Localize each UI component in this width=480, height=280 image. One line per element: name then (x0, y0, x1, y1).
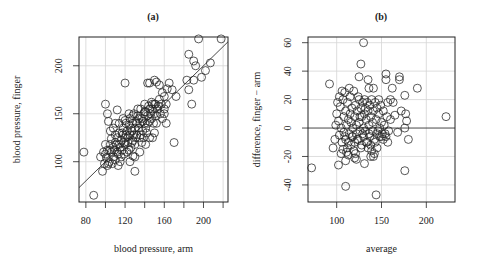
data-point (383, 113, 391, 121)
data-point (340, 113, 348, 121)
data-point (345, 84, 353, 92)
chart-figure: 80120160200100150200(a)blood pressure, a… (0, 0, 480, 280)
data-point (339, 145, 347, 153)
data-point (150, 129, 158, 137)
x-axis-label: average (366, 243, 398, 254)
data-point (365, 84, 373, 92)
data-point (394, 128, 402, 136)
data-point (401, 91, 409, 99)
data-point (355, 73, 363, 81)
data-point (360, 160, 368, 168)
data-point (195, 35, 203, 43)
data-point (401, 167, 409, 175)
data-point (373, 104, 381, 112)
x-tick-label: 200 (196, 215, 211, 226)
data-point (162, 100, 170, 108)
data-point (217, 35, 225, 43)
data-point (185, 50, 193, 58)
data-point (190, 57, 198, 65)
data-point (364, 76, 372, 84)
data-point (331, 135, 339, 143)
y-tick-label: -20 (282, 150, 293, 163)
x-tick-label: 200 (419, 215, 434, 226)
data-point (334, 161, 342, 169)
y-tick-label: 200 (53, 58, 64, 73)
data-point (397, 107, 405, 115)
panel-title: (b) (375, 11, 387, 23)
y-tick-label: 60 (282, 38, 293, 48)
data-point (369, 84, 377, 92)
data-point (388, 84, 396, 92)
data-point (329, 144, 337, 152)
y-tick-label: -40 (282, 178, 293, 191)
data-point (404, 135, 412, 143)
data-point (386, 116, 394, 124)
panel-title: (a) (147, 11, 159, 23)
x-tick-label: 100 (329, 215, 344, 226)
data-point (357, 60, 365, 68)
data-point (162, 119, 170, 127)
data-point (350, 87, 358, 95)
data-point (342, 107, 350, 115)
data-point (185, 86, 193, 94)
data-point (90, 191, 98, 199)
data-point (342, 182, 350, 190)
x-tick-label: 160 (157, 215, 172, 226)
panel-b-scatter: 100150200-40-200204060(b)averagedifferen… (251, 11, 455, 254)
data-point (113, 106, 121, 114)
data-point (131, 167, 139, 175)
data-point (413, 84, 421, 92)
x-tick-label: 120 (118, 215, 133, 226)
x-tick-label: 80 (81, 215, 91, 226)
data-point (384, 138, 392, 146)
y-axis-label: blood pressure, finger (11, 75, 22, 163)
y-tick-label: 100 (53, 154, 64, 169)
data-point (326, 80, 334, 88)
data-point (372, 191, 380, 199)
data-point (403, 117, 411, 125)
y-tick-label: 20 (282, 95, 293, 105)
data-point (442, 113, 450, 121)
data-point (188, 100, 196, 108)
data-point (371, 138, 379, 146)
data-point (172, 92, 180, 100)
data-point (198, 73, 206, 81)
data-point (382, 76, 390, 84)
x-axis-label: blood pressure, arm (114, 243, 193, 254)
data-point (308, 164, 316, 172)
y-tick-label: 150 (53, 106, 64, 121)
y-tick-label: 40 (282, 66, 293, 76)
data-point (80, 148, 88, 156)
data-point (369, 118, 377, 126)
data-point (170, 139, 178, 147)
y-axis-label: difference, finger − arm (251, 72, 262, 168)
panel-a-scatter: 80120160200100150200(a)blood pressure, a… (11, 11, 228, 254)
data-point (165, 79, 173, 87)
y-tick-label: 0 (282, 126, 293, 131)
data-point (150, 76, 158, 84)
data-point (402, 110, 410, 118)
x-tick-label: 150 (374, 215, 389, 226)
